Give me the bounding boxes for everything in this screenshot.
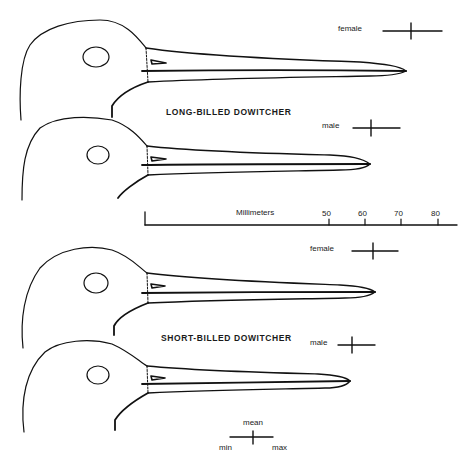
scale-tick-60: 60 [358, 209, 367, 218]
range-bar-long-female [383, 23, 442, 39]
short-billed-male-head [23, 341, 350, 432]
short-billed-female-label: female [310, 244, 334, 253]
legend-range-bar [230, 431, 273, 444]
range-bar-short-male [338, 337, 375, 353]
legend-mean-label: mean [243, 418, 263, 427]
scale-tick-70: 70 [394, 209, 403, 218]
legend-min-label: min [219, 443, 232, 452]
short-billed-species-title: SHORT-BILLED DOWITCHER [161, 333, 292, 343]
long-billed-female-head [20, 20, 406, 120]
long-billed-male-head [22, 117, 370, 200]
long-billed-female-label: female [338, 24, 362, 33]
short-billed-male-label: male [310, 338, 327, 347]
range-bar-short-female [352, 243, 398, 259]
scale-tick-50: 50 [322, 209, 331, 218]
scale-label: Millimeters [236, 208, 274, 217]
long-billed-species-title: LONG-BILLED DOWITCHER [166, 107, 291, 117]
range-bar-long-male [353, 120, 400, 136]
legend-max-label: max [272, 443, 287, 452]
long-billed-male-label: male [322, 121, 339, 130]
scale-tick-80: 80 [431, 209, 440, 218]
millimeter-scale [145, 212, 457, 225]
dowitcher-bill-diagram [0, 0, 473, 467]
